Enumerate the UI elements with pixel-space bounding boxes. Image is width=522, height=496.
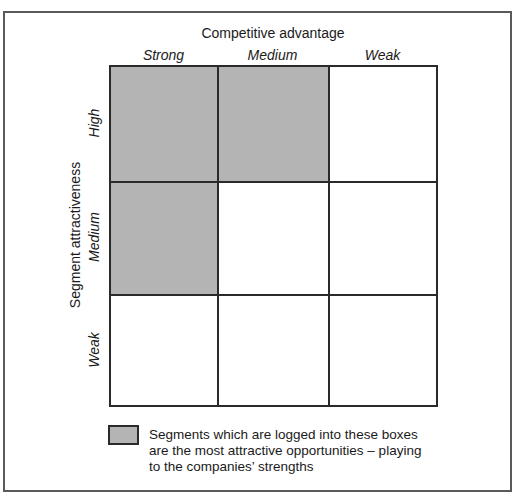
cell-medium-strong — [111, 181, 219, 294]
row-label-weak-text: Weak — [86, 332, 102, 368]
cell-high-strong — [111, 67, 219, 181]
column-label-medium: Medium — [218, 47, 327, 63]
legend-line-2: are the most attractive opportunities – … — [149, 443, 449, 459]
cell-weak-weak — [330, 294, 438, 405]
grid-divider-v1 — [217, 67, 219, 405]
cell-high-weak — [330, 67, 438, 181]
grid-divider-h1 — [111, 181, 436, 183]
legend-text: Segments which are logged into these box… — [149, 427, 449, 475]
grid-divider-v2 — [328, 67, 330, 405]
x-axis-title: Competitive advantage — [109, 25, 437, 41]
legend-swatch-shaded — [108, 425, 139, 445]
column-label-strong: Strong — [109, 47, 218, 63]
cell-medium-weak — [330, 181, 438, 294]
y-axis-title-text: Segment attractiveness — [67, 162, 83, 308]
attractiveness-matrix — [109, 65, 438, 407]
grid-divider-h2 — [111, 294, 436, 296]
cell-high-medium — [219, 67, 330, 181]
cell-weak-strong — [111, 294, 219, 405]
legend-line-3: to the companies’ strengths — [149, 459, 449, 475]
cell-weak-medium — [219, 294, 330, 405]
row-label-medium-text: Medium — [86, 212, 102, 262]
cell-medium-medium — [219, 181, 330, 294]
column-label-weak: Weak — [328, 47, 437, 63]
legend-line-1: Segments which are logged into these box… — [149, 427, 449, 443]
row-label-high-text: High — [86, 109, 102, 138]
